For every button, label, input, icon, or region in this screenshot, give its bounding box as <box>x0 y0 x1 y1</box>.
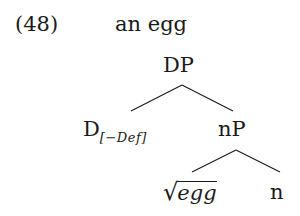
branch-np-root <box>192 150 236 172</box>
node-d-feature: [−Def] <box>100 130 147 145</box>
node-dp: DP <box>163 55 194 76</box>
node-d: D[−Def] <box>83 119 147 140</box>
node-d-label: D <box>83 117 100 141</box>
node-np: nP <box>218 119 246 140</box>
node-root-egg: √egg <box>163 180 217 204</box>
tree-branches <box>0 0 300 216</box>
node-n: n <box>270 182 284 203</box>
node-root-egg-label: egg <box>177 181 216 204</box>
radical-icon: √ <box>163 180 178 204</box>
branch-dp-np <box>182 85 233 111</box>
branch-np-n <box>236 150 280 172</box>
branch-dp-d <box>131 85 182 111</box>
